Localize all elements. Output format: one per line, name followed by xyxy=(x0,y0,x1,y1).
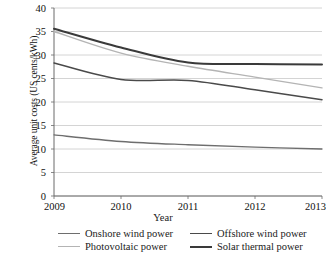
legend-swatch-icon xyxy=(58,246,80,247)
chart-legend: Onshore wind power Offshore wind power P… xyxy=(0,228,326,252)
x-tick-label: 2009 xyxy=(44,201,65,212)
x-tick-label: 2012 xyxy=(245,201,266,212)
x-tick-label: 2011 xyxy=(178,201,199,212)
x-axis-title: Year xyxy=(0,212,326,223)
legend-label: Photovoltaic power xyxy=(85,241,167,252)
legend-swatch-icon xyxy=(58,233,80,234)
plot-area: Average unit costs (US cents/kWh) 051015… xyxy=(0,0,326,215)
legend-item-solar-thermal-power[interactable]: Solar thermal power xyxy=(190,241,322,252)
x-tick-label: 2013 xyxy=(305,201,326,212)
legend-label: Onshore wind power xyxy=(85,228,173,239)
y-tick-label: 5 xyxy=(41,167,46,178)
x-tick-label: 2010 xyxy=(111,201,132,212)
legend-label: Solar thermal power xyxy=(217,241,303,252)
figure: Average unit costs (US cents/kWh) 051015… xyxy=(0,0,326,268)
legend-swatch-icon xyxy=(190,233,212,234)
legend-item-offshore-wind-power[interactable]: Offshore wind power xyxy=(190,228,322,239)
line-chart: 051015202530354020092010201120122013 xyxy=(0,0,326,215)
legend-item-onshore-wind-power[interactable]: Onshore wind power xyxy=(58,228,190,239)
y-axis-title: Average unit costs (US cents/kWh) xyxy=(29,1,39,201)
series-line xyxy=(54,135,322,149)
legend-swatch-icon xyxy=(190,246,212,248)
legend-item-photovoltaic-power[interactable]: Photovoltaic power xyxy=(58,241,190,252)
series-line xyxy=(54,29,322,65)
legend-label: Offshore wind power xyxy=(217,228,307,239)
